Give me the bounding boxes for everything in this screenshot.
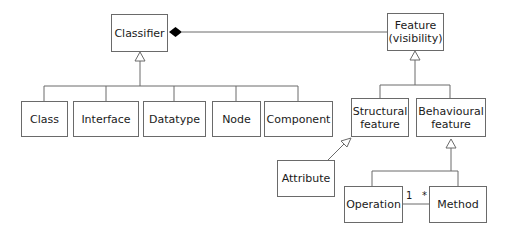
class-name-line1: Behavioural — [418, 105, 484, 118]
class-name: Operation — [346, 198, 401, 211]
class-name: Component — [267, 113, 331, 126]
class-box-datatype: Datatype — [143, 101, 206, 137]
class-box-classifier: Classifier — [111, 14, 168, 52]
class-name: Class — [30, 113, 59, 126]
class-name: Feature — [395, 19, 437, 32]
class-box-behavioural-feature: Behavioural feature — [416, 98, 486, 137]
multiplicity-operation: 1 — [406, 190, 412, 201]
class-box-component: Component — [264, 101, 333, 137]
class-box-interface: Interface — [73, 101, 139, 137]
generalization-arrow-icon — [410, 51, 420, 60]
class-name: Datatype — [149, 113, 200, 126]
composition-diamond-icon — [169, 27, 182, 37]
class-name: Method — [437, 198, 478, 211]
class-name-line2: feature — [431, 118, 471, 131]
generalization-arrow-icon — [446, 139, 456, 148]
class-attribute: (visibility) — [389, 32, 443, 45]
class-name-line1: Structural — [353, 105, 407, 118]
generalization-arrow-icon — [135, 52, 145, 61]
class-name: Classifier — [114, 27, 164, 40]
class-box-operation: Operation — [344, 186, 403, 223]
class-box-method: Method — [429, 186, 487, 223]
class-name: Interface — [81, 113, 130, 126]
class-box-class: Class — [21, 101, 68, 137]
class-box-feature: Feature (visibility) — [387, 13, 444, 51]
multiplicity-method: * — [422, 190, 427, 201]
class-name: Attribute — [282, 172, 331, 185]
class-box-node: Node — [212, 101, 261, 137]
class-name-line2: feature — [360, 118, 400, 131]
class-box-structural-feature: Structural feature — [351, 98, 409, 137]
class-name: Node — [222, 113, 251, 126]
class-box-attribute: Attribute — [277, 160, 335, 197]
